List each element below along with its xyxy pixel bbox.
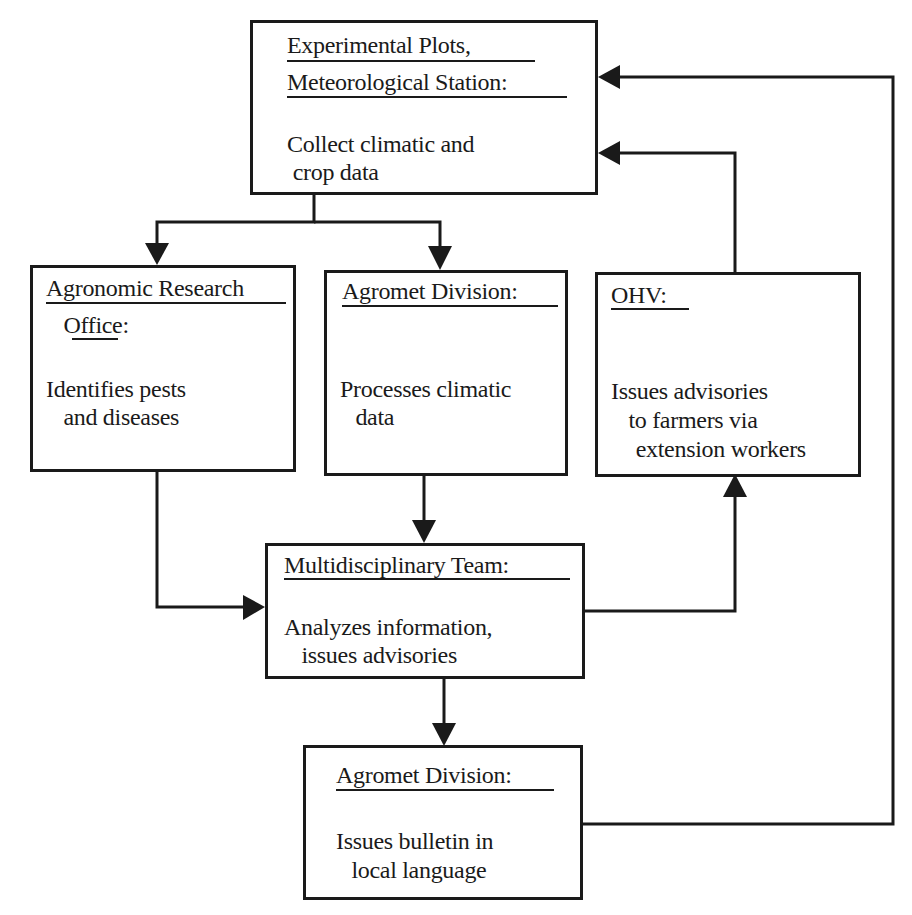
underline — [46, 302, 286, 304]
underline — [72, 338, 118, 340]
node-agromet-bulletin-title: Agromet Division: — [336, 762, 512, 788]
node-agronomic-body-1: Identifies pests — [46, 374, 186, 404]
node-station-body-2: crop data — [287, 157, 379, 187]
node-agronomic-title-2: Office: — [52, 312, 129, 338]
underline — [611, 308, 689, 310]
underline — [287, 60, 535, 62]
arrow-right-icon — [243, 595, 265, 620]
node-agronomic-body-2: and diseases — [52, 402, 179, 432]
node-station-title-1: Experimental Plots, — [287, 32, 471, 58]
node-agromet-bulletin-body-1: Issues bulletin in — [336, 826, 493, 856]
node-team-body-1: Analyzes information, — [284, 612, 492, 642]
node-agromet-bulletin-body-2: local language — [340, 855, 486, 885]
arrow-left-icon — [598, 65, 620, 89]
underline — [342, 305, 558, 307]
node-station-title-2: Meteorological Station: — [287, 69, 507, 95]
node-agromet-process-title: Agromet Division: — [342, 278, 518, 304]
node-team-title: Multidisciplinary Team: — [284, 552, 509, 578]
underline — [284, 578, 570, 580]
node-agromet-process-body-1: Processes climatic — [340, 374, 511, 404]
arrow-down-icon — [145, 243, 169, 265]
node-ohv-body-3: extension workers — [630, 434, 806, 464]
arrow-left-icon — [598, 141, 620, 165]
node-team-body-2: issues advisories — [290, 640, 457, 670]
arrow-up-icon — [723, 474, 747, 497]
arrow-down-icon — [428, 246, 452, 270]
node-station-body-1: Collect climatic and — [287, 129, 474, 159]
node-agromet-process-body-2: data — [344, 402, 394, 432]
underline — [336, 789, 554, 791]
arrow-down-icon — [412, 520, 436, 543]
node-ohv-title: OHV: — [611, 282, 667, 308]
node-ohv-body-1: Issues advisories — [611, 376, 768, 406]
underline — [287, 96, 567, 98]
node-agronomic-title-1: Agronomic Research — [46, 275, 244, 301]
node-ohv-body-2: to farmers via — [617, 405, 757, 435]
arrow-down-icon — [432, 723, 456, 746]
